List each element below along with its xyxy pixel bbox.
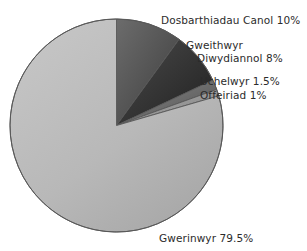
pie-label-gweithwyr-line2: Diwydiannol 8% [186,52,306,65]
pie-label-gweithwyr-diwydiannol: Gweithwyr Diwydiannol 8% [186,39,306,64]
pie-label-dosbarthiadau-canol: Dosbarthiadau Canol 10% [161,14,300,27]
pie-label-offeiriad: Offeiriad 1% [200,89,267,102]
pie-label-uchelwyr: Uchelwyr 1.5% [200,75,280,88]
pie-label-gwerinwyr: Gwerinwyr 79.5% [159,232,253,245]
pie-label-gweithwyr-line1: Gweithwyr [186,39,243,51]
pie-chart: Dosbarthiadau Canol 10% Gweithwyr Diwydi… [0,0,307,251]
pie-chart-graphic [0,0,307,251]
